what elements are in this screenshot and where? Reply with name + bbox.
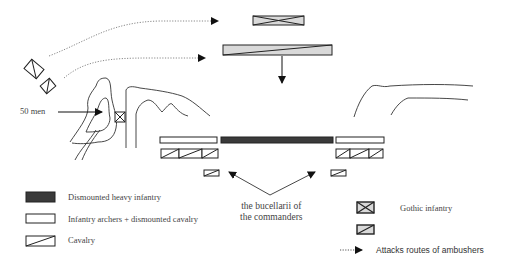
bucellarii-arrows	[229, 172, 315, 195]
bucellarii-right	[331, 170, 346, 176]
bucellarii-label-line2: the commanders	[240, 212, 303, 223]
legend-label-cavalry: Cavalry	[68, 235, 95, 245]
legend-swatch-gothic-cavalry	[357, 225, 374, 234]
gothic-infantry-pass-unit	[115, 112, 125, 122]
ambusher-unit-1	[24, 59, 44, 78]
bucellarii-label: the bucellarii of the commanders	[240, 201, 303, 223]
terrain-hills	[70, 78, 473, 160]
legend-swatch-cavalry	[26, 236, 55, 246]
legend-label-heavy-infantry: Dismounted heavy infantry	[68, 192, 161, 202]
bucellarii-left	[204, 170, 219, 176]
legend-label-archers: Infantry archers + dismounted cavalry	[68, 214, 198, 224]
roman-heavy-infantry	[221, 137, 333, 143]
roman-right-cavalry	[336, 149, 383, 158]
ambush-route-lower	[64, 58, 205, 78]
fifty-men-label: 50 men	[20, 106, 45, 116]
legend-label-gothic-infantry: Gothic infantry	[400, 203, 452, 213]
legend-swatch-archers	[26, 214, 55, 223]
legend-swatch-heavy-infantry	[26, 192, 55, 202]
roman-left-archers	[160, 137, 217, 143]
legend-swatch-gothic-infantry	[357, 202, 374, 213]
bucellarii-label-line1: the bucellarii of	[240, 201, 303, 212]
gothic-infantry-unit-top	[253, 16, 304, 25]
gothic-cavalry-unit	[223, 45, 332, 55]
legend-label-ambush-routes: Attacks routes of ambushers	[376, 245, 484, 255]
roman-left-cavalry	[161, 149, 218, 158]
ambusher-unit-2	[40, 78, 56, 93]
ambush-route-upper	[49, 21, 218, 56]
roman-right-archers	[336, 137, 384, 143]
